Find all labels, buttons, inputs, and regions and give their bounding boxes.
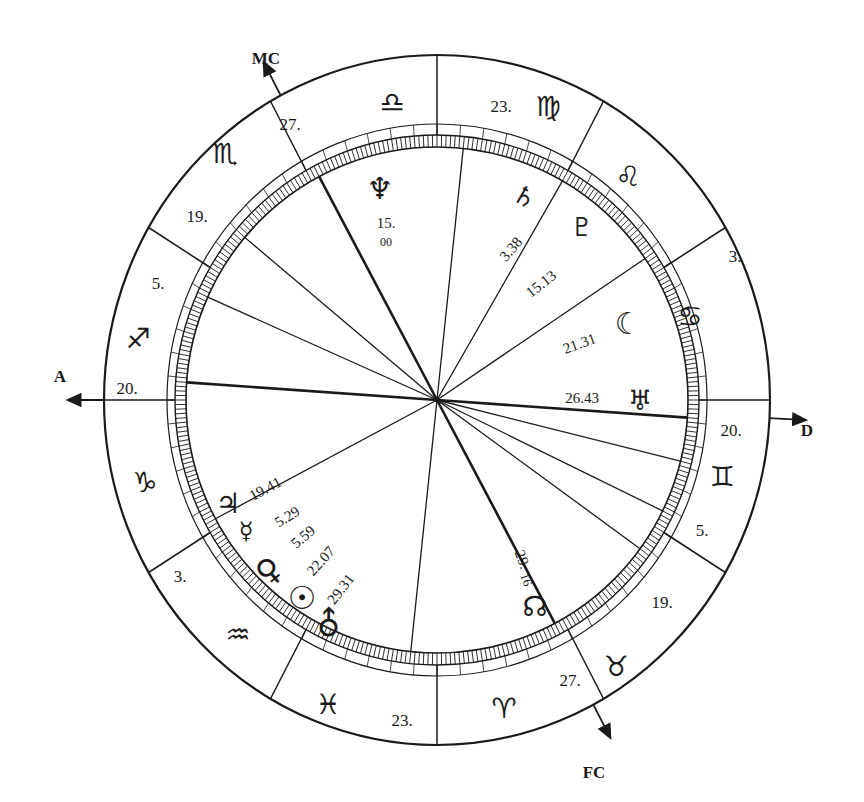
five-degree-tick (698, 376, 706, 377)
degree-tick (498, 645, 501, 657)
five-degree-tick (367, 133, 369, 144)
degree-tick (489, 141, 491, 153)
degree-tick (506, 145, 509, 157)
degree-tick (566, 173, 572, 183)
degree-tick (356, 641, 359, 652)
degree-tick (595, 597, 602, 606)
degree-tick (539, 158, 543, 169)
capricorn-sign-icon: ♑ (132, 466, 157, 499)
degree-tick (652, 264, 661, 270)
degree-tick (515, 641, 518, 652)
degree-tick (650, 260, 659, 266)
degree-tick (555, 623, 560, 634)
degree-tick (588, 602, 595, 612)
degree-tick (365, 145, 368, 157)
five-degree-tick (652, 552, 659, 558)
degree-tick (387, 648, 389, 660)
degree-tick (176, 372, 187, 373)
degree-tick (183, 336, 194, 339)
degree-tick (506, 643, 509, 655)
degree-tick (191, 487, 201, 491)
degree-tick (527, 153, 531, 164)
degree-tick (239, 566, 247, 574)
d-axis-label: D (801, 421, 813, 440)
degree-tick (178, 435, 189, 437)
five-degree-tick (282, 174, 287, 183)
degree-tick (206, 276, 216, 282)
five-degree-tick (568, 629, 572, 639)
degree-tick (648, 256, 657, 263)
degree-tick (605, 203, 612, 212)
cusp-degree-label: 5. (152, 274, 165, 293)
degree-tick (233, 559, 242, 567)
degree-tick (598, 197, 605, 206)
degree-tick (450, 135, 451, 147)
five-degree-tick (622, 587, 628, 595)
five-degree-tick (664, 262, 671, 268)
degree-tick (581, 183, 587, 193)
degree-tick (233, 233, 242, 241)
five-degree-tick (390, 661, 391, 672)
degree-tick (684, 444, 695, 446)
house-cusp-line (215, 400, 437, 519)
degree-tick (215, 260, 224, 266)
degree-tick (481, 139, 483, 151)
degree-tick (681, 461, 692, 464)
degree-tick (687, 382, 698, 383)
virgo-sign-icon: ♍ (535, 90, 560, 123)
degree-tick (198, 503, 208, 508)
degree-tick (648, 538, 657, 545)
degree-tick (678, 470, 689, 473)
venus-planet-icon: ♀ (248, 548, 290, 592)
degree-tick (177, 431, 188, 432)
degree-tick (392, 139, 394, 151)
five-degree-tick (230, 223, 236, 230)
five-degree-tick (690, 469, 698, 472)
degree-tick (527, 636, 531, 647)
degree-tick (663, 511, 673, 516)
five-degree-tick (216, 242, 223, 248)
degree-tick (252, 579, 260, 587)
degree-tick (489, 647, 491, 659)
degree-tick (663, 284, 673, 289)
degree-tick (383, 647, 385, 659)
mercury-degree-label: 5.29 (272, 503, 303, 530)
degree-tick (186, 323, 197, 327)
degree-tick (176, 426, 187, 427)
taurus-sign-icon: ♉ (603, 650, 628, 683)
degree-tick (249, 216, 257, 224)
degree-tick (176, 382, 187, 383)
degree-tick (657, 272, 667, 278)
leo-sign-icon: ♌ (615, 160, 640, 193)
degree-tick (343, 153, 347, 164)
degree-tick (231, 556, 240, 563)
degree-tick (570, 615, 576, 625)
degree-tick (410, 136, 411, 148)
saturn-degree-label: 3.38 (496, 234, 525, 264)
degree-tick (401, 138, 403, 150)
degree-tick (621, 573, 629, 581)
degree-tick (185, 470, 196, 473)
degree-tick (645, 541, 654, 548)
degree-tick (339, 154, 343, 165)
degree-tick (185, 327, 196, 330)
degree-tick (265, 200, 272, 209)
five-degree-tick (638, 223, 644, 230)
degree-tick (189, 482, 199, 486)
degree-tick (681, 336, 692, 339)
degree-tick (419, 652, 420, 664)
sign-boundary-line (271, 101, 307, 170)
scorpio-sign-icon: ♏ (212, 137, 237, 170)
degree-tick (626, 566, 634, 574)
degree-tick (502, 644, 505, 656)
astrological-chart-wheel: MCADFC ♎♍♌♋♊♉♈♓♒♑♐♏ 27.23.3.20.5.19.27.2… (0, 0, 864, 802)
degree-tick (614, 213, 622, 221)
degree-tick (637, 552, 646, 559)
degree-tick (559, 168, 564, 178)
moon-planet-icon: ☽ (615, 305, 642, 340)
five-degree-tick (605, 603, 610, 611)
degree-tick (621, 219, 629, 227)
five-degree-tick (323, 150, 326, 160)
neptune-planet-icon: ♆ (367, 171, 394, 206)
degree-tick (298, 175, 304, 185)
